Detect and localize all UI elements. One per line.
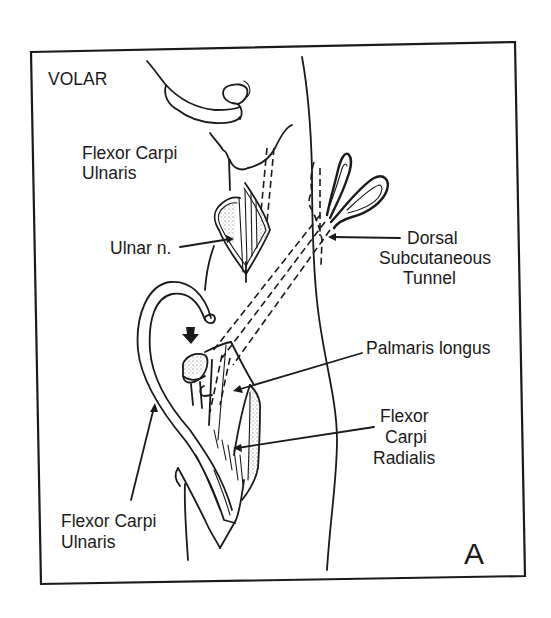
label-fcu-bottom: Flexor Carpi (61, 511, 156, 531)
label-fcr-3: Radialis (373, 448, 435, 468)
scissors-icon (309, 154, 388, 265)
label-fcr-1: Flexor (380, 406, 429, 426)
palmaris-flexor-region (183, 342, 261, 500)
view-label: VOLAR (48, 69, 107, 89)
label-fcu-bottom-2: Ulnaris (61, 532, 116, 552)
down-arrow-icon (182, 327, 199, 344)
label-palmaris-longus: Palmaris longus (366, 338, 491, 358)
anatomical-figure: VOLAR (0, 0, 551, 618)
label-fcr-2: Carpi (385, 427, 427, 447)
label-subcutaneous: Subcutaneous (379, 248, 491, 268)
panel-letter: A (464, 537, 484, 570)
label-fcu-top: Flexor Carpi (82, 143, 177, 163)
tunnel-dashes-diagonal (210, 215, 330, 412)
label-dorsal: Dorsal (407, 228, 458, 248)
figure-frame (31, 42, 525, 584)
label-ulnar-nerve: Ulnar n. (110, 238, 171, 258)
label-fcu-top-2: Ulnaris (82, 163, 137, 183)
ulnar-incision (205, 183, 270, 290)
label-tunnel: Tunnel (403, 268, 456, 288)
leader-lines (131, 233, 400, 500)
